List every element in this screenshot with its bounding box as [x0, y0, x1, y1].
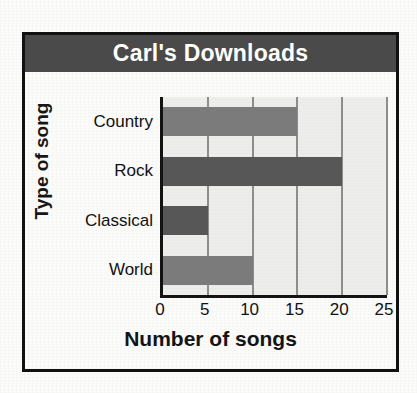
x-tick-25: 25 — [375, 300, 394, 320]
x-tick-15: 15 — [285, 300, 304, 320]
y-axis-label: Type of song — [31, 86, 53, 236]
bar-world — [163, 256, 253, 285]
gridline — [341, 97, 343, 295]
x-tick-5: 5 — [200, 300, 209, 320]
y-tick-world: World — [109, 260, 153, 280]
bar-country — [163, 107, 297, 136]
x-tick-20: 20 — [330, 300, 349, 320]
x-axis-tick-labels: 0510152025 — [160, 300, 390, 324]
plot-area — [160, 97, 387, 298]
y-tick-classical: Classical — [85, 211, 153, 231]
chart-title: Carl's Downloads — [113, 40, 308, 67]
y-tick-country: Country — [93, 112, 153, 132]
y-axis-tick-labels: CountryRockClassicalWorld — [62, 97, 157, 295]
x-tick-0: 0 — [155, 300, 164, 320]
x-tick-10: 10 — [240, 300, 259, 320]
chart-title-banner: Carl's Downloads — [25, 35, 396, 72]
bar-rock — [163, 157, 342, 186]
bar-classical — [163, 206, 208, 235]
x-axis-label: Number of songs — [22, 327, 399, 351]
gridline — [386, 97, 388, 295]
y-tick-rock: Rock — [114, 161, 153, 181]
